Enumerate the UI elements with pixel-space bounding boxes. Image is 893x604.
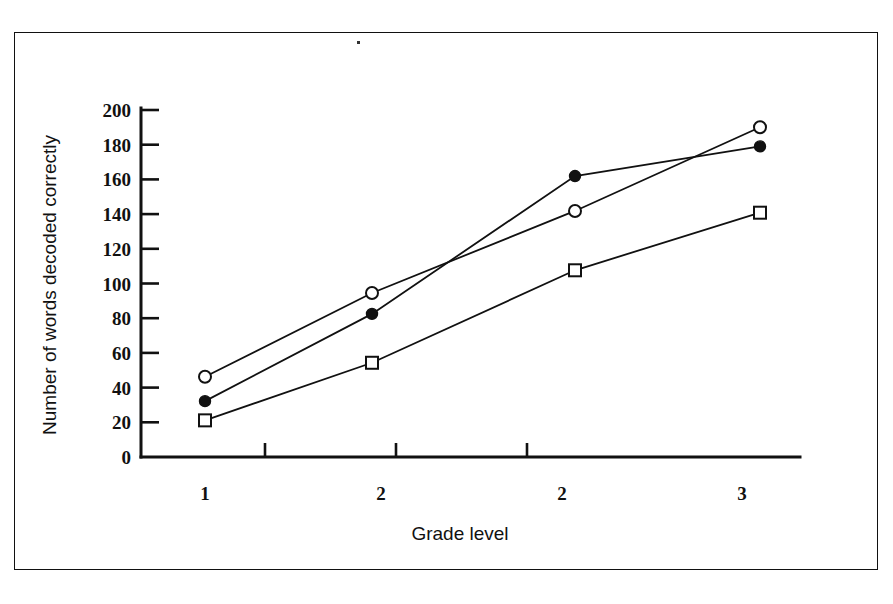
x-axis-ticks bbox=[265, 443, 527, 457]
y-tick-label-80: 80 bbox=[112, 308, 131, 329]
y-axis-title: Number of words decoded correctly bbox=[39, 135, 60, 435]
data-point-filled-circle-series-3 bbox=[755, 141, 766, 152]
x-tick-label-2a: 2 bbox=[376, 483, 386, 504]
y-tick-label-200: 200 bbox=[103, 100, 132, 121]
data-point-open-square-series-0 bbox=[199, 414, 211, 426]
y-tick-label-180: 180 bbox=[103, 135, 132, 156]
series-line-filled-circle-series bbox=[205, 146, 760, 401]
data-point-filled-circle-series-1 bbox=[367, 308, 378, 319]
data-point-open-square-series-2 bbox=[569, 264, 581, 276]
x-axis-title: Grade level bbox=[411, 523, 508, 544]
y-tick-label-140: 140 bbox=[103, 204, 132, 225]
series-line-open-square-series bbox=[205, 213, 760, 421]
data-point-open-square-series-3 bbox=[754, 207, 766, 219]
figure-page: 200 180 160 140 120 100 80 60 40 20 0 1 … bbox=[0, 0, 893, 604]
y-tick-label-160: 160 bbox=[103, 169, 132, 190]
y-tick-label-120: 120 bbox=[103, 239, 132, 260]
scan-speck bbox=[357, 41, 360, 44]
data-point-open-circle-series-0 bbox=[199, 371, 211, 383]
data-point-open-square-series-1 bbox=[366, 357, 378, 369]
y-tick-label-60: 60 bbox=[112, 343, 131, 364]
data-point-filled-circle-series-0 bbox=[200, 396, 211, 407]
y-tick-label-0: 0 bbox=[122, 447, 132, 468]
data-point-open-circle-series-3 bbox=[754, 121, 766, 133]
x-tick-label-1: 1 bbox=[200, 483, 210, 504]
y-tick-label-40: 40 bbox=[112, 378, 131, 399]
x-tick-label-2b: 2 bbox=[557, 483, 567, 504]
series-layer bbox=[199, 121, 766, 426]
y-tick-label-100: 100 bbox=[103, 274, 132, 295]
data-point-filled-circle-series-2 bbox=[570, 171, 581, 182]
line-chart: 200 180 160 140 120 100 80 60 40 20 0 1 … bbox=[0, 0, 893, 604]
x-tick-label-3: 3 bbox=[737, 483, 747, 504]
series-line-open-circle-series bbox=[205, 127, 760, 377]
y-axis-ticks bbox=[141, 110, 159, 422]
data-point-open-circle-series-1 bbox=[366, 287, 378, 299]
data-point-open-circle-series-2 bbox=[569, 205, 581, 217]
y-tick-label-20: 20 bbox=[112, 412, 131, 433]
